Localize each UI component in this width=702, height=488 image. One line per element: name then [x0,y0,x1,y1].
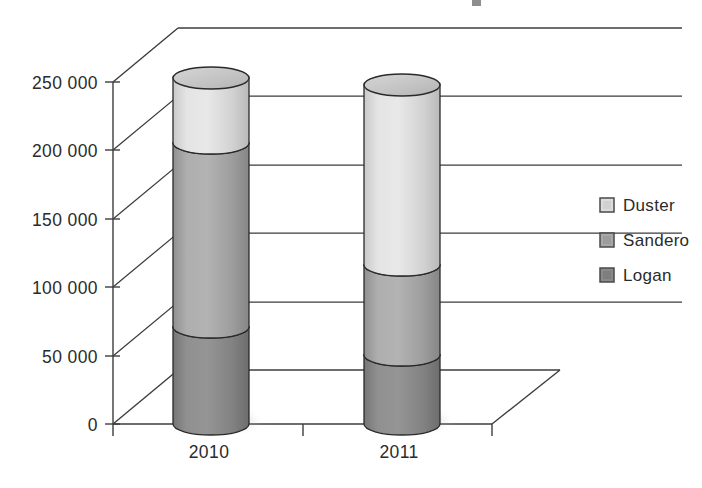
legend-label-sandero: Sandero [623,231,689,250]
legend-item-logan[interactable]: Logan [600,266,672,285]
y-tick-label-100000: 100 000 [32,278,98,298]
x-tick-label-2011: 2011 [379,442,418,462]
stacked-cylinder-chart: 250 000 200 000 150 000 100 000 50 000 0 [0,0,702,488]
floor-left-edge [113,370,178,424]
legend-swatch-sandero-inner [603,236,611,244]
bar-2011-segment-sandero[interactable] [364,265,440,366]
chart-legend: Duster Sandero Logan [600,196,689,285]
y-tick-label-250000: 250 000 [32,73,98,93]
legend-label-logan: Logan [623,266,672,285]
bar-2010-top-cap [173,67,249,89]
y-tick-label-200000: 200 000 [32,141,98,161]
y-tick-label-50000: 50 000 [42,347,98,367]
legend-swatch-logan-inner [603,271,611,279]
chart-container: 250 000 200 000 150 000 100 000 50 000 0 [0,0,702,488]
floor-right-edge [492,370,560,424]
legend-item-sandero[interactable]: Sandero [600,231,689,250]
backwall-depth-edge-top [113,28,178,82]
x-axis-labels: 2010 2011 [189,442,419,462]
legend-label-duster: Duster [623,196,675,215]
bar-2010-segment-sandero[interactable] [173,143,249,338]
bar-2011-segment-duster[interactable] [364,85,440,276]
x-tick-label-2010: 2010 [189,442,230,462]
page-top-fragment [472,0,481,6]
bar-2010[interactable] [173,67,249,435]
legend-item-duster[interactable]: Duster [600,196,675,215]
bar-2011-top-cap [364,74,440,96]
y-axis-labels: 250 000 200 000 150 000 100 000 50 000 0 [32,73,98,435]
y-tick-label-0: 0 [88,415,98,435]
y-tick-label-150000: 150 000 [32,210,98,230]
bar-2010-segment-logan[interactable] [173,327,249,435]
legend-swatch-duster-inner [603,201,611,209]
bar-2011[interactable] [364,74,440,435]
bar-2011-segment-logan[interactable] [364,355,440,435]
